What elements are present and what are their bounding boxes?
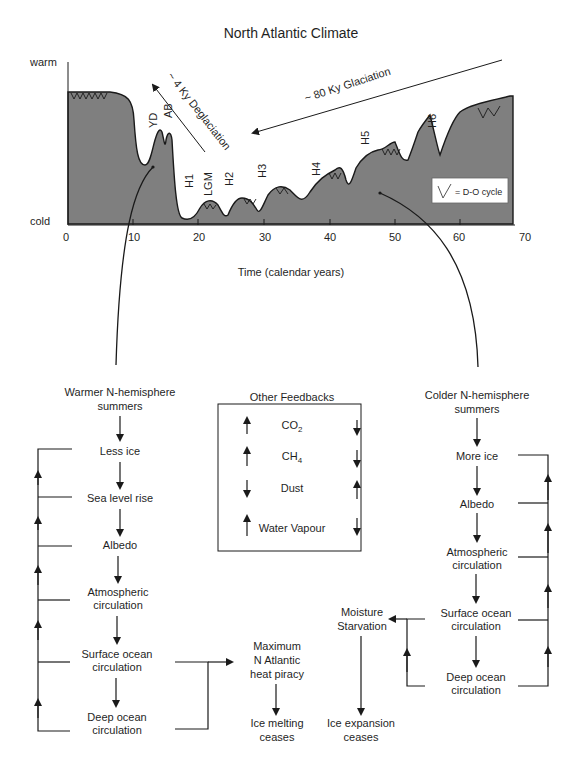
svg-text:Atmospheric: Atmospheric	[446, 546, 508, 558]
svg-text:circulation: circulation	[451, 620, 501, 632]
warm-step-sea-level: Sea level rise	[87, 492, 153, 504]
svg-text:20: 20	[193, 231, 205, 243]
cold-feedback-loop	[518, 455, 548, 686]
warm-step-albedo: Albedo	[103, 539, 137, 551]
x-axis-label: Time (calendar years)	[238, 266, 345, 278]
svg-text:Starvation: Starvation	[337, 620, 387, 632]
svg-text:N Atlantic: N Atlantic	[254, 654, 301, 666]
svg-text:50: 50	[389, 231, 401, 243]
label-ab: AB	[162, 103, 174, 118]
svg-text:summers: summers	[454, 403, 500, 415]
label-h4: H4	[310, 162, 322, 176]
svg-text:Deep ocean: Deep ocean	[87, 711, 146, 723]
svg-text:Colder N-hemisphere: Colder N-hemisphere	[425, 389, 530, 401]
label-h1: H1	[183, 174, 195, 188]
svg-text:60: 60	[453, 231, 465, 243]
warm-trigger-line1: Warmer N-hemisphere	[65, 386, 176, 398]
svg-text:heat piracy: heat piracy	[250, 668, 304, 680]
svg-text:0: 0	[63, 231, 69, 243]
svg-text:Deep ocean: Deep ocean	[446, 671, 505, 683]
label-h2: H2	[223, 172, 235, 186]
feedback-water-vapour: Water Vapour	[259, 522, 326, 534]
svg-text:circulation: circulation	[451, 684, 501, 696]
warm-trigger-line2: summers	[97, 400, 143, 412]
feedback-direction-arrows	[247, 418, 357, 536]
cold-outcome: Moisture Starvation Ice expansion ceases	[327, 606, 395, 743]
svg-text:Maximum: Maximum	[253, 640, 301, 652]
svg-text:Ice melting: Ice melting	[250, 717, 303, 729]
svg-text:30: 30	[259, 231, 271, 243]
feedbacks-rows: CO2 CH4 Dust Water Vapour	[259, 419, 326, 534]
moisture-connector	[390, 619, 425, 686]
feedback-dust: Dust	[281, 482, 304, 494]
x-tick-labels: 0 10 20 30 40 50 60 70	[63, 231, 531, 243]
svg-text:Atmospheric: Atmospheric	[87, 586, 149, 598]
glaciation-label: ~ 80 Ky Glaciation	[303, 65, 392, 104]
chart-title: North Atlantic Climate	[224, 25, 359, 41]
cold-label: cold	[30, 215, 50, 227]
deglaciation-label: ~ 4 Ky Deglaciation	[165, 70, 233, 152]
svg-text:More ice: More ice	[456, 450, 498, 462]
warm-step-less-ice: Less ice	[100, 445, 140, 457]
svg-text:Moisture: Moisture	[341, 606, 383, 618]
svg-text:circulation: circulation	[92, 724, 142, 736]
warm-feedback-loop	[38, 449, 72, 731]
svg-text:Surface ocean: Surface ocean	[82, 648, 153, 660]
svg-text:ceases: ceases	[344, 731, 379, 743]
svg-text:Surface ocean: Surface ocean	[441, 607, 512, 619]
svg-text:Ice expansion: Ice expansion	[327, 717, 395, 729]
feedback-ch4: CH4	[282, 450, 303, 465]
svg-text:circulation: circulation	[452, 559, 502, 571]
svg-text:circulation: circulation	[93, 599, 143, 611]
legend-text: = D-O cycle	[455, 187, 502, 197]
label-yd: YD	[147, 113, 159, 128]
svg-text:circulation: circulation	[92, 661, 142, 673]
climate-figure: North Atlantic Climate warm cold 0 10 20…	[0, 0, 582, 771]
heat-piracy-connector	[175, 662, 232, 729]
warm-outcome: Maximum N Atlantic heat piracy Ice melti…	[250, 640, 304, 743]
feedback-co2: CO2	[282, 419, 304, 434]
svg-text:70: 70	[519, 231, 531, 243]
svg-text:10: 10	[128, 231, 140, 243]
label-h6: H6	[426, 114, 438, 128]
label-h5: H5	[359, 131, 371, 145]
svg-text:Albedo: Albedo	[460, 498, 494, 510]
svg-text:ceases: ceases	[260, 731, 295, 743]
feedbacks-title: Other Feedbacks	[250, 391, 335, 403]
climate-curve-area	[68, 92, 513, 224]
svg-text:40: 40	[324, 231, 336, 243]
label-h3: H3	[256, 164, 268, 178]
label-lgm: LGM	[202, 172, 214, 196]
warm-label: warm	[29, 56, 57, 68]
